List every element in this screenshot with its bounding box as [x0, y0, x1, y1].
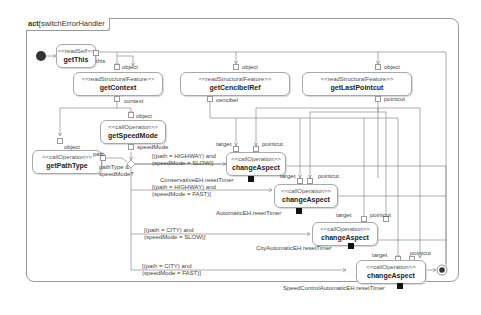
stereotype-label: <<readStructuralFeature>> [181, 75, 289, 83]
timer-label: AutomaticEH.resetTimer [216, 210, 281, 217]
pin-label-speedMode: speedMode [137, 144, 168, 151]
action-name: changeAspect [313, 233, 377, 243]
action-changeAspect-speed-control[interactable]: <<callOperation>> changeAspect [356, 260, 426, 284]
pin-label-pointcut: pointcut [318, 173, 339, 180]
pin-label-pointcut: pointcut [410, 250, 431, 257]
pin-label-context: context [124, 98, 143, 105]
pin-label-this: this [96, 58, 105, 65]
pin-label-object: object [384, 64, 400, 71]
pin-label-target: target [372, 252, 387, 259]
pin-object-getLastPointcut[interactable] [375, 64, 381, 70]
pin-object-getSpeedMode[interactable] [128, 112, 134, 118]
pin-pointcut[interactable] [375, 96, 381, 102]
action-getPathType[interactable]: <<callOperation>> getPathType [32, 150, 102, 174]
action-name: getPathType [33, 161, 101, 171]
pin-speedMode[interactable] [128, 144, 134, 150]
stereotype-label: <<callOperation>> [275, 187, 337, 195]
pin-label-target: target [336, 212, 351, 219]
timer-label: CityAutomaticEH.resetTimer [256, 245, 331, 252]
timer-label: SpeedControlAutomaticEH.resetTimer [283, 285, 385, 292]
guard-highway-fast: [(path = HIGHWAY) and (speedMode = FAST)… [152, 184, 216, 198]
pin-label-target: target [280, 173, 295, 180]
action-getSpeedMode[interactable]: <<callOperation>> getSpeedMode [100, 120, 166, 144]
guard-highway-slow: [(path = HIGHWAY) and (speedMode = SLOW)… [152, 153, 216, 167]
action-changeAspect-automatic[interactable]: <<callOperation>> changeAspect [274, 184, 338, 208]
action-changeAspect-conservative[interactable]: <<callOperation>> changeAspect [226, 152, 286, 176]
action-name: changeAspect [227, 163, 285, 173]
action-name: getSpeedMode [101, 131, 165, 141]
action-getThis[interactable]: <<readSelf>> getThis [56, 44, 96, 68]
timer-label: ConservativeEH.resetTimer [160, 177, 233, 184]
stereotype-label: <<readStructuralFeature>> [74, 75, 162, 83]
action-name: getCencibelRef [181, 83, 289, 93]
initial-node [36, 51, 46, 61]
stereotype-label: <<readStructuralFeature>> [303, 75, 411, 83]
action-name: getLastPointcut [303, 83, 411, 93]
timer-pin-icon [397, 283, 403, 289]
guard-city-slow: [(path = CITY) and (speedMode = SLOW)] [144, 227, 206, 241]
pin-label-target: target [216, 141, 231, 148]
action-changeAspect-city-automatic[interactable]: <<callOperation>> changeAspect [312, 222, 378, 246]
pin-object-getContext[interactable] [114, 64, 120, 70]
pin-label-pointcut: pointcut [384, 96, 405, 103]
pin-this[interactable] [93, 50, 99, 56]
action-name: getContext [74, 83, 162, 93]
action-name: changeAspect [275, 195, 337, 205]
timer-pin-icon [248, 176, 254, 182]
action-name: changeAspect [357, 271, 425, 281]
pin-label-path: path [93, 151, 105, 158]
timer-pin-icon [348, 243, 354, 249]
stereotype-label: <<readSelf>> [57, 47, 95, 55]
action-getContext[interactable]: <<readStructuralFeature>> getContext [73, 72, 163, 96]
pin-label-cencibel: cencibel [216, 97, 238, 104]
pin-object-getPathType[interactable] [57, 138, 63, 144]
stereotype-label: <<callOperation>> [313, 225, 377, 233]
stereotype-label: <<callOperation>> [101, 123, 165, 131]
action-getLastPointcut[interactable]: <<readStructuralFeature>> getLastPointcu… [302, 72, 412, 96]
pin-object-getCencibelRef[interactable] [233, 64, 239, 70]
pin-label-object: object [122, 64, 138, 71]
stereotype-label: <<callOperation>> [357, 263, 425, 271]
pin-label-object: object [242, 64, 258, 71]
pin-cencibel[interactable] [207, 96, 213, 102]
stereotype-label: <<callOperation>> [227, 155, 285, 163]
guard-city-fast: [(path = CITY) and (speedMode = FAST)] [142, 263, 201, 277]
timer-pin-icon [296, 208, 302, 214]
stereotype-label: <<callOperation>> [33, 153, 101, 161]
pin-context[interactable] [114, 96, 120, 102]
pin-label-pointcut: pointcut [262, 141, 283, 148]
decision-label: pathType & speedMode? [99, 164, 134, 178]
pin-label-object: object [136, 113, 152, 120]
activity-diagram: act[switchErrorHandler [0, 0, 481, 315]
pin-label-pointcut: pointcut [370, 212, 391, 219]
action-getCencibelRef[interactable]: <<readStructuralFeature>> getCencibelRef [180, 72, 290, 96]
action-name: getThis [57, 55, 95, 65]
